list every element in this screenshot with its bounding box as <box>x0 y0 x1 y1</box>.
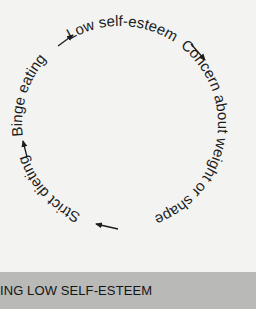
arrow-concern-to-strict-dieting <box>96 224 118 229</box>
footer-title: ING LOW SELF-ESTEEM <box>0 283 152 298</box>
footer-bar: ING LOW SELF-ESTEEM <box>0 272 256 309</box>
cycle-diagram: Low self-esteem Concern about weight or … <box>0 0 256 272</box>
step-binge-eating: Binge eating <box>8 50 49 137</box>
step-strict-dieting: Strict dieting <box>14 154 83 227</box>
step-low-self-esteem: Low self-esteem <box>63 12 181 45</box>
arrow-strict-dieting-to-binge <box>23 141 27 157</box>
step-concern-weight-shape: Concern about weight or shape <box>153 36 232 229</box>
page: Low self-esteem Concern about weight or … <box>0 0 256 309</box>
